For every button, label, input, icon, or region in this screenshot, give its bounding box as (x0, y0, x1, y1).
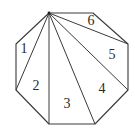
region-labels: 1 2 3 4 5 6 (21, 13, 116, 111)
region-label-1: 1 (21, 41, 28, 56)
diagonal-to-e (49, 13, 95, 124)
apex-vertex (48, 12, 51, 15)
region-label-5: 5 (109, 47, 116, 62)
region-label-4: 4 (99, 81, 106, 96)
region-label-2: 2 (33, 78, 40, 93)
region-label-3: 3 (64, 96, 71, 111)
region-label-6: 6 (88, 13, 95, 28)
octagon-diagram: 1 2 3 4 5 6 (0, 0, 135, 133)
